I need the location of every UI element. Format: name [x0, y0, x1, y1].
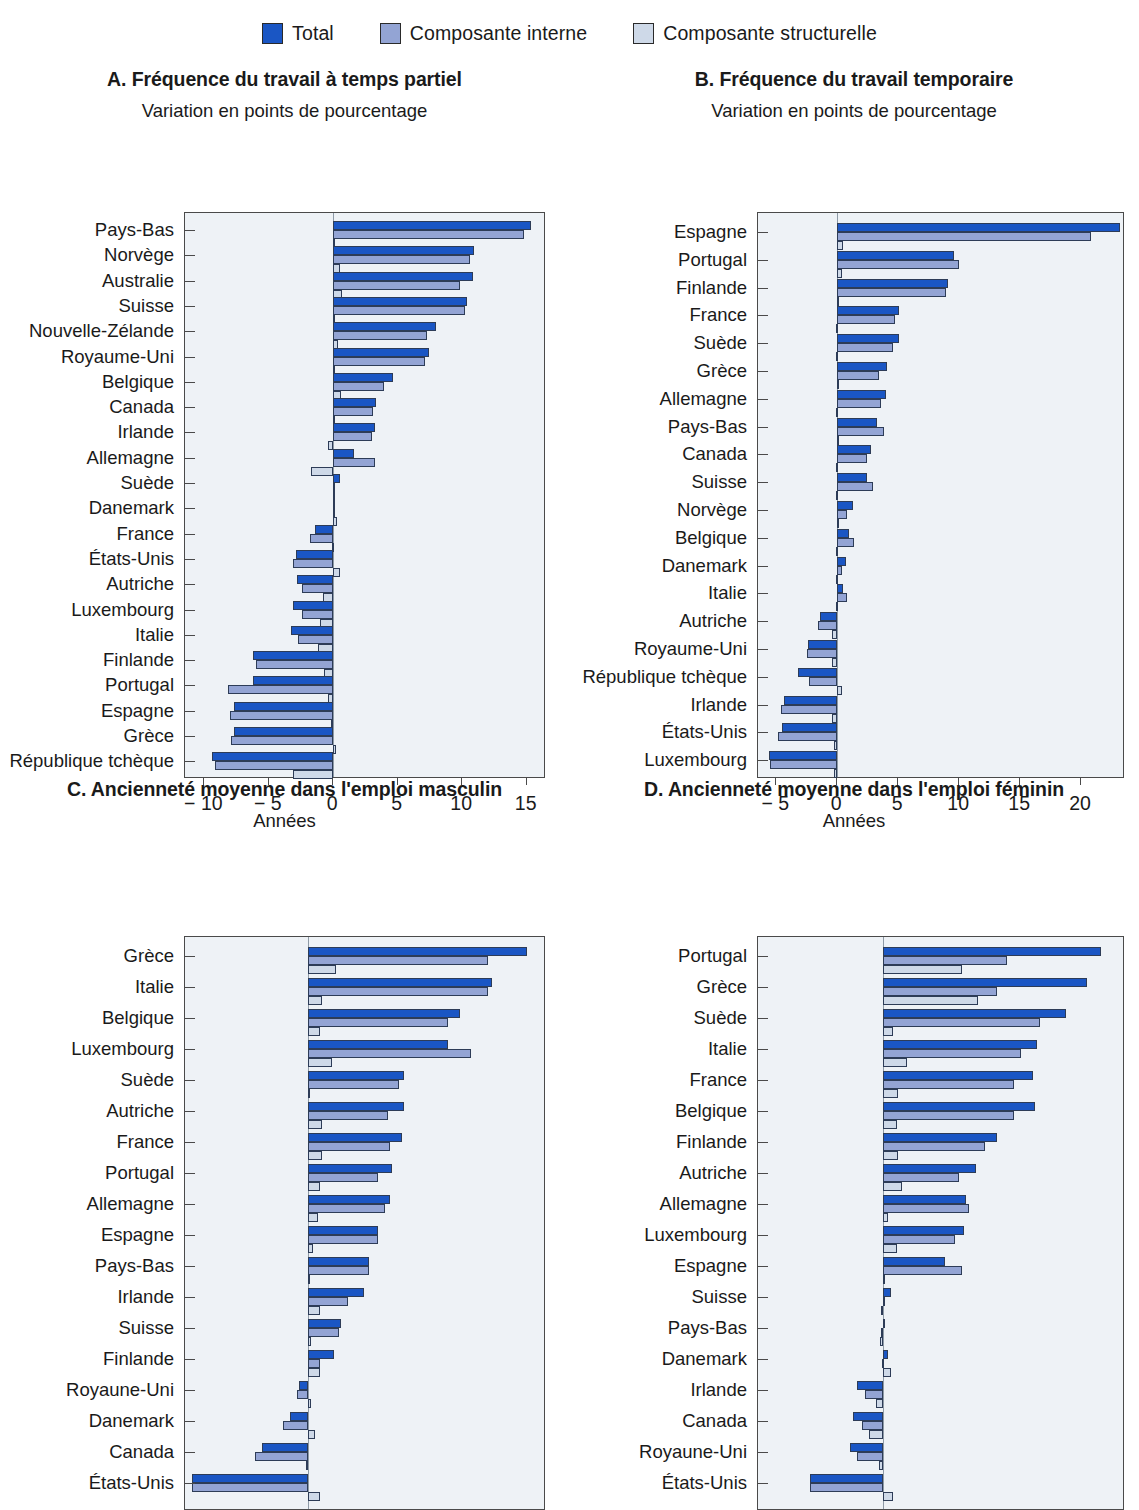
bar-structurelle: [837, 380, 839, 389]
bar-interne: [255, 1452, 309, 1461]
y-axis-tick: [184, 1018, 195, 1019]
bar-total: [808, 640, 837, 649]
y-axis-category-label: Finlande: [676, 1131, 747, 1153]
bar-interne: [837, 371, 878, 380]
bar-total: [333, 322, 436, 331]
y-axis-tick: [184, 1266, 195, 1267]
y-axis-tick: [757, 956, 768, 957]
y-axis-tick: [184, 1297, 195, 1298]
bar-total: [798, 668, 837, 677]
legend-swatch-interne-icon: [380, 23, 401, 44]
bar-interne: [308, 1297, 348, 1306]
y-axis-category-label: Norvège: [677, 499, 747, 521]
legend-label: Composante structurelle: [663, 22, 877, 45]
bar-total: [308, 978, 492, 987]
y-axis-tick: [184, 357, 195, 358]
y-axis-category-label: Irlande: [117, 421, 174, 443]
y-axis-tick: [757, 1421, 768, 1422]
panel-title: B. Fréquence du travail temporaire: [569, 52, 1139, 91]
y-axis-labels: PortugalGrèceSuèdeItalieFranceBelgiqueFi…: [569, 936, 747, 1510]
y-axis-tick: [184, 306, 195, 307]
bar-structurelle: [883, 1368, 890, 1377]
bar-total: [308, 1102, 403, 1111]
bar-total: [883, 978, 1087, 987]
bar-structurelle: [883, 1151, 897, 1160]
y-axis-category-label: Pays-Bas: [668, 1317, 747, 1339]
y-axis-tick: [184, 1173, 195, 1174]
bar-interne: [883, 1235, 954, 1244]
bar-total: [297, 575, 333, 584]
bar-structurelle: [832, 658, 837, 667]
y-axis-category-label: Allemagne: [87, 447, 174, 469]
bar-structurelle: [308, 1492, 320, 1501]
y-axis-tick: [184, 559, 195, 560]
bar-interne: [883, 1080, 1013, 1089]
y-axis-category-label: Italie: [708, 582, 747, 604]
y-axis-tick: [184, 458, 195, 459]
bar-interne: [333, 281, 459, 290]
panel-a: A. Fréquence du travail à temps partielV…: [0, 52, 569, 762]
y-axis-tick: [757, 399, 768, 400]
bar-total: [837, 445, 871, 454]
y-axis-tick: [757, 1359, 768, 1360]
bar-total: [883, 1319, 885, 1328]
bar-total: [192, 1474, 308, 1483]
y-axis-category-label: Italie: [135, 976, 174, 998]
bar-interne: [857, 1452, 883, 1461]
y-axis-tick: [757, 1328, 768, 1329]
y-axis-category-label: Pays-Bas: [95, 1255, 174, 1277]
bar-total: [308, 1040, 448, 1049]
y-axis-category-label: France: [116, 523, 174, 545]
bar-total: [883, 1164, 975, 1173]
bar-interne: [837, 399, 881, 408]
bar-interne: [883, 1297, 885, 1306]
bar-structurelle: [308, 1058, 331, 1067]
y-axis-category-label: Portugal: [105, 1162, 174, 1184]
y-axis-category-label: Espagne: [101, 1224, 174, 1246]
bar-interne: [837, 232, 1091, 241]
bar-total: [333, 423, 374, 432]
panel-subtitle: Années: [569, 801, 1139, 832]
y-axis-tick: [184, 1235, 195, 1236]
y-axis-category-label: France: [116, 1131, 174, 1153]
bar-interne: [333, 357, 425, 366]
panel-title: A. Fréquence du travail à temps partiel: [0, 52, 569, 91]
y-axis-tick: [757, 1390, 768, 1391]
y-axis-tick: [184, 1111, 195, 1112]
bar-total: [299, 1381, 308, 1390]
bar-interne: [778, 732, 838, 741]
bar-structurelle: [308, 965, 336, 974]
y-axis-tick: [757, 232, 768, 233]
bar-structurelle: [883, 1058, 907, 1067]
bar-total: [333, 398, 376, 407]
bar-structurelle: [308, 1027, 320, 1036]
bar-structurelle: [308, 1151, 322, 1160]
y-axis-tick: [757, 538, 768, 539]
bar-structurelle: [308, 1399, 310, 1408]
bar-total: [333, 272, 472, 281]
bar-total: [290, 1412, 309, 1421]
y-axis-category-label: Royaume-Uni: [61, 346, 174, 368]
bar-interne: [883, 1049, 1020, 1058]
chart-legend: TotalComposante interneComposante struct…: [0, 0, 1139, 52]
y-axis-tick: [757, 732, 768, 733]
y-axis-category-label: Grèce: [124, 725, 174, 747]
bar-interne: [293, 559, 333, 568]
bar-interne: [837, 566, 842, 575]
y-axis-category-label: Finlande: [103, 649, 174, 671]
y-axis-category-label: Finlande: [676, 277, 747, 299]
y-axis-tick: [757, 371, 768, 372]
bar-structurelle: [308, 1089, 310, 1098]
y-axis-tick: [184, 987, 195, 988]
bar-total: [234, 727, 333, 736]
bar-interne: [308, 1018, 448, 1027]
y-axis-category-label: République tchèque: [582, 666, 747, 688]
y-axis-category-label: Irlande: [117, 1286, 174, 1308]
y-axis-category-label: Suisse: [118, 1317, 174, 1339]
y-axis-tick: [757, 1049, 768, 1050]
y-axis-category-label: Danemark: [662, 555, 747, 577]
y-axis-category-label: États-Unis: [662, 1472, 747, 1494]
y-axis-tick: [184, 1421, 195, 1422]
y-axis-category-label: Espagne: [674, 221, 747, 243]
bar-structurelle: [836, 463, 838, 472]
